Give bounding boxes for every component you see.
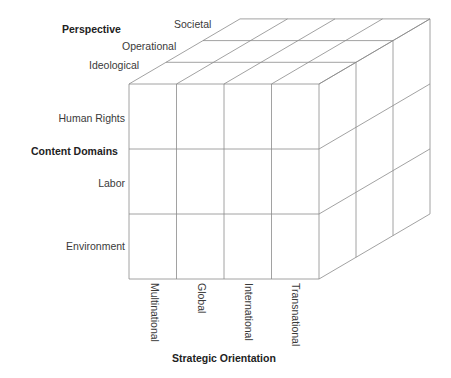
cube-diagram: Perspective Societal Operational Ideolog… <box>0 0 451 378</box>
strategic-orientation-axis-title: Strategic Orientation <box>172 353 276 364</box>
orientation-label-multinational: Multinational <box>150 283 161 342</box>
orientation-label-transnational: Transnational <box>291 283 302 346</box>
content-domains-axis-title: Content Domains <box>31 146 118 157</box>
perspective-axis-title: Perspective <box>62 24 121 35</box>
perspective-label-ideological: Ideological <box>89 60 139 71</box>
domain-label-labor: Labor <box>98 178 125 189</box>
domain-label-human-rights: Human Rights <box>58 113 125 124</box>
orientation-label-international: International <box>244 283 255 341</box>
domain-label-environment: Environment <box>66 241 125 252</box>
perspective-label-societal: Societal <box>174 19 211 30</box>
cube-grid <box>0 0 451 378</box>
orientation-label-global: Global <box>197 283 208 313</box>
perspective-label-operational: Operational <box>122 41 176 52</box>
